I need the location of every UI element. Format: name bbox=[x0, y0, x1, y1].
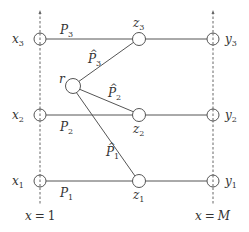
label-P3: P3 bbox=[59, 23, 73, 39]
node-x3 bbox=[34, 33, 46, 45]
label-y1: y1 bbox=[224, 174, 237, 190]
node-z2 bbox=[133, 109, 146, 122]
label-y3: y3 bbox=[224, 32, 237, 48]
axis-label-right: x=M bbox=[195, 209, 231, 223]
node-r bbox=[66, 79, 81, 94]
node-z1 bbox=[133, 175, 146, 188]
label-P2-hat: P2 ^ bbox=[107, 82, 121, 102]
network-diagram: x3 x2 x1 y3 y2 y1 z3 z2 z1 r P3 P2 P1 P3… bbox=[0, 0, 249, 232]
label-z3: z3 bbox=[132, 16, 144, 32]
label-z1: z1 bbox=[132, 188, 144, 204]
label-r: r bbox=[59, 72, 66, 86]
node-x2 bbox=[34, 109, 46, 121]
svg-text:^: ^ bbox=[110, 82, 118, 92]
edge-r-z3 bbox=[78, 42, 134, 82]
label-x2: x2 bbox=[12, 108, 24, 124]
edge-r-z1 bbox=[76, 92, 135, 176]
label-x3: x3 bbox=[12, 32, 24, 48]
node-y2 bbox=[207, 109, 219, 121]
node-x1 bbox=[34, 175, 46, 187]
label-P3-hat: P3 ^ bbox=[87, 48, 101, 68]
node-z3 bbox=[133, 33, 146, 46]
node-y3 bbox=[207, 33, 219, 45]
hat-icon: ^ bbox=[90, 48, 98, 58]
label-y2: y2 bbox=[224, 108, 237, 124]
axis-label-left: x=1 bbox=[25, 209, 55, 223]
label-z2: z2 bbox=[132, 122, 144, 138]
label-P2: P2 bbox=[59, 120, 73, 136]
label-x1: x1 bbox=[12, 174, 24, 190]
hat-icon: ^ bbox=[108, 141, 116, 151]
label-P1: P1 bbox=[59, 186, 73, 202]
node-y1 bbox=[207, 175, 219, 187]
